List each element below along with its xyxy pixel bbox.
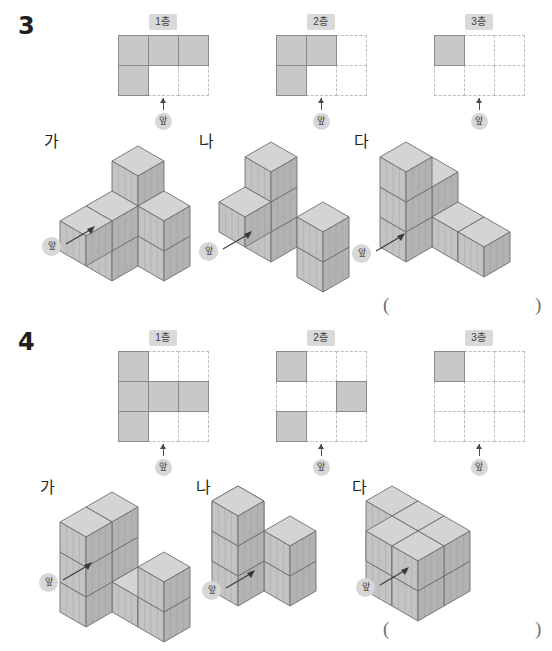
front-arrow-icon xyxy=(64,225,98,247)
front-badge: 앞 xyxy=(471,459,488,476)
layer-tag: 3층 xyxy=(465,330,493,346)
front-badge: 앞 xyxy=(352,244,371,263)
grid-cell-empty[interactable] xyxy=(494,411,525,442)
front-arrow-icon xyxy=(224,569,258,591)
up-arrow-icon xyxy=(163,444,164,456)
front-arrow-icon xyxy=(221,230,255,252)
grid-cell-empty[interactable] xyxy=(148,65,179,96)
grid-cell-empty[interactable] xyxy=(178,411,209,442)
front-indicator: 앞 xyxy=(199,242,218,261)
grid xyxy=(118,35,208,95)
answer-blank-problem-3[interactable]: ( ) xyxy=(383,294,552,318)
front-badge: 앞 xyxy=(155,113,172,130)
grid-cell-empty[interactable] xyxy=(178,65,209,96)
figure-option-da[interactable]: 다 앞 xyxy=(350,132,525,282)
grid-cell-filled[interactable] xyxy=(276,351,307,382)
grid-cell-empty[interactable] xyxy=(306,381,337,412)
figure-option-ga[interactable]: 가 앞 xyxy=(40,132,200,282)
grid-cell-filled[interactable] xyxy=(178,381,209,412)
grid-cell-filled[interactable] xyxy=(118,65,149,96)
grid-cell-empty[interactable] xyxy=(464,351,495,382)
grid-cell-filled[interactable] xyxy=(178,35,209,66)
layer-tag: 1층 xyxy=(149,14,177,30)
front-indicator: 앞 xyxy=(471,444,488,476)
front-indicator: 앞 xyxy=(202,581,221,600)
grid-cell-filled[interactable] xyxy=(276,35,307,66)
grid-cell-empty[interactable] xyxy=(494,35,525,66)
answer-left-paren: ( xyxy=(383,294,389,316)
grid-cell-empty[interactable] xyxy=(148,411,179,442)
grid-cell-filled[interactable] xyxy=(148,35,179,66)
grid-cell-filled[interactable] xyxy=(336,381,367,412)
grid-cell-empty[interactable] xyxy=(306,351,337,382)
figure-option-na[interactable]: 나 앞 xyxy=(195,132,355,282)
grid-cell-empty[interactable] xyxy=(434,65,465,96)
grid-cell-empty[interactable] xyxy=(434,381,465,412)
grid-cell-filled[interactable] xyxy=(118,411,149,442)
layer-grids-problem-3: 1층앞2층앞3층앞 xyxy=(118,14,524,130)
grid-cell-empty[interactable] xyxy=(336,351,367,382)
figures-problem-4: 가 앞 나 앞 xyxy=(0,478,552,628)
grid-cell-empty[interactable] xyxy=(306,65,337,96)
front-badge: 앞 xyxy=(202,581,221,600)
grid-cell-filled[interactable] xyxy=(118,35,149,66)
front-arrow-icon xyxy=(378,566,412,588)
grid-cell-empty[interactable] xyxy=(464,411,495,442)
up-arrow-icon xyxy=(321,444,322,456)
grid-cell-empty[interactable] xyxy=(434,411,465,442)
layer-tag: 3층 xyxy=(465,14,493,30)
grid-cell-empty[interactable] xyxy=(464,35,495,66)
isometric-cube-figure xyxy=(58,144,192,283)
front-badge: 앞 xyxy=(199,242,218,261)
front-indicator: 앞 xyxy=(352,244,371,263)
grid-cell-empty[interactable] xyxy=(494,381,525,412)
grid-cell-empty[interactable] xyxy=(276,381,307,412)
layer-tag: 2층 xyxy=(307,14,335,30)
grid-cell-empty[interactable] xyxy=(494,65,525,96)
figure-option-da[interactable]: 다 앞 xyxy=(348,478,528,628)
front-indicator: 앞 xyxy=(155,98,172,130)
figure-label: 가 xyxy=(44,134,59,150)
answer-blank-problem-4[interactable]: ( ) xyxy=(383,618,552,642)
grid-cell-filled[interactable] xyxy=(118,381,149,412)
grid-cell-filled[interactable] xyxy=(306,35,337,66)
front-indicator: 앞 xyxy=(155,444,172,476)
grid-cell-empty[interactable] xyxy=(464,65,495,96)
layer-grid-2: 2층앞 xyxy=(276,14,366,130)
layer-tag: 2층 xyxy=(307,330,335,346)
front-arrow-icon xyxy=(61,561,95,583)
grid-cell-empty[interactable] xyxy=(178,351,209,382)
grid-cell-empty[interactable] xyxy=(148,351,179,382)
grid-cell-empty[interactable] xyxy=(306,411,337,442)
cube-stack-svg xyxy=(58,144,192,283)
grid-cell-empty[interactable] xyxy=(336,411,367,442)
grid-cell-empty[interactable] xyxy=(464,381,495,412)
front-badge: 앞 xyxy=(471,113,488,130)
grid xyxy=(276,351,366,441)
grid-cell-filled[interactable] xyxy=(434,351,465,382)
answer-right-paren: ) xyxy=(535,618,541,640)
grid-cell-empty[interactable] xyxy=(494,351,525,382)
grid-cell-filled[interactable] xyxy=(148,381,179,412)
isometric-cube-figure xyxy=(378,140,512,279)
grid-cell-filled[interactable] xyxy=(118,351,149,382)
figure-option-ga[interactable]: 가 앞 xyxy=(36,478,201,628)
front-indicator: 앞 xyxy=(313,98,330,130)
grid-cell-empty[interactable] xyxy=(336,35,367,66)
up-arrow-icon xyxy=(163,98,164,110)
figures-problem-3: 가 앞 나 앞 xyxy=(0,132,552,282)
front-badge: 앞 xyxy=(313,459,330,476)
grid-cell-filled[interactable] xyxy=(434,35,465,66)
answer-left-paren: ( xyxy=(383,618,389,640)
grid-cell-filled[interactable] xyxy=(276,411,307,442)
figure-option-na[interactable]: 나 앞 xyxy=(192,478,357,628)
cube-stack-svg xyxy=(364,484,472,623)
grid-cell-empty[interactable] xyxy=(336,65,367,96)
figure-label: 다 xyxy=(354,134,369,150)
front-indicator: 앞 xyxy=(471,98,488,130)
layer-grids-problem-4: 1층앞2층앞3층앞 xyxy=(118,330,524,476)
front-indicator: 앞 xyxy=(356,578,375,597)
grid-cell-filled[interactable] xyxy=(276,65,307,96)
front-indicator: 앞 xyxy=(313,444,330,476)
front-badge: 앞 xyxy=(155,459,172,476)
